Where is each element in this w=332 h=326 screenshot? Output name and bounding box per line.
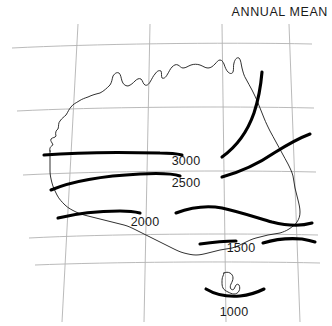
contour-map-canvas: 30002500200015001000 (0, 0, 332, 326)
contour-label-1000: 1000 (220, 305, 249, 319)
graticule-parallel (29, 234, 318, 238)
graticule-parallel (17, 107, 314, 111)
contour-line-3000 (44, 152, 182, 155)
graticule-parallel (12, 43, 312, 48)
coastline-tasmania (222, 272, 240, 294)
contour-label-2000: 2000 (131, 215, 160, 229)
graticule-parallel (35, 262, 320, 265)
contour-line-1000 (206, 289, 264, 296)
contour-label-2500: 2500 (172, 176, 201, 190)
contour-label-3000: 3000 (172, 154, 201, 168)
contour-label-1500: 1500 (227, 241, 256, 255)
contour-line-2000 (58, 211, 140, 218)
contour-line-2000 (176, 207, 312, 226)
contour-line-1500 (263, 239, 315, 243)
annual-mean-rainfall-map: ANNUAL MEAN 30002500200015001000 (0, 0, 332, 326)
contour-line-2500 (222, 134, 310, 177)
graticule-meridian (289, 24, 300, 322)
contour-line-3000 (222, 72, 262, 157)
contour-line-2500 (51, 174, 180, 190)
